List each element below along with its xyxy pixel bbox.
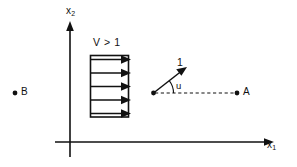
x1-axis-label: x1	[267, 140, 276, 151]
flow-arrow	[91, 96, 131, 104]
point-a-label: A	[243, 87, 250, 97]
x2-axis-label-subscript: 2	[71, 10, 75, 17]
flow-arrow	[91, 69, 131, 77]
vector-origin-dot	[151, 91, 156, 96]
angle-label: u	[176, 81, 181, 91]
angle-arc	[169, 81, 173, 93]
x2-axis-label: x2	[66, 6, 75, 17]
x2-axis-arrowhead	[66, 21, 74, 31]
flow-arrow	[91, 82, 131, 90]
point-a-dot	[235, 91, 240, 96]
point-b-label: B	[21, 87, 28, 97]
points-group	[13, 91, 240, 96]
flow-speed-label: V > 1	[93, 37, 121, 48]
point-b-dot	[13, 91, 18, 96]
vector-group	[151, 67, 234, 95]
vector-magnitude-label: 1	[177, 57, 183, 68]
flow-arrow	[91, 55, 131, 63]
figure-canvas: x1 x2 V > 1 1 u A B	[0, 0, 297, 167]
x1-axis-label-subscript: 1	[272, 144, 276, 151]
flow-region-group	[91, 55, 132, 117]
figure-vector-graphics	[0, 0, 297, 167]
axis-group	[55, 21, 274, 157]
